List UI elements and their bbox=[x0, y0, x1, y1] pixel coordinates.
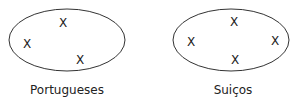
set-group-suiços: XXXXSuiços bbox=[173, 9, 289, 97]
element-mark: X bbox=[23, 37, 31, 51]
element-mark: X bbox=[187, 35, 195, 49]
element-mark: X bbox=[271, 34, 279, 48]
set-group-portugueses: XXXPortugueses bbox=[9, 9, 125, 97]
set-label: Portugueses bbox=[30, 83, 104, 97]
element-mark: X bbox=[76, 53, 84, 67]
sets-diagram: XXXPortuguesesXXXXSuiços bbox=[0, 0, 297, 104]
element-mark: X bbox=[231, 53, 239, 67]
element-mark: X bbox=[59, 16, 67, 30]
set-label: Suiços bbox=[214, 83, 253, 97]
element-mark: X bbox=[230, 15, 238, 29]
